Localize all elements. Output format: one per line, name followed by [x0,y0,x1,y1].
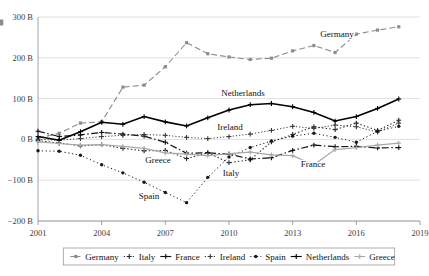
data-point-marker [312,44,315,47]
data-point-marker [249,146,252,149]
series-line [38,126,399,202]
data-point-marker [206,176,209,179]
legend-item-label: France [175,252,200,262]
x-axis-tick-label: 2019 [412,228,429,238]
legend-item-netherlands[interactable]: Netherlands [291,252,350,262]
chart-legend: GermanyItalyFranceIrelandSpainNetherland… [63,248,394,265]
x-axis-tick-label: 2016 [348,228,365,238]
legend-item-label: Spain [265,252,286,262]
inline-series-label: Spain [139,191,160,201]
x-axis-tick-label: 2010 [221,228,238,238]
legend-item-spain[interactable]: Spain [250,252,286,262]
legend-item-greece[interactable]: Greece [354,252,394,262]
y-axis-tick-label: 0 B [21,134,33,144]
data-point-marker [206,52,209,55]
data-point-marker [143,84,146,87]
legend-item-france[interactable]: France [160,252,200,262]
data-point-marker [185,201,188,204]
data-point-marker [74,255,77,258]
data-point-marker [0,22,3,25]
data-point-marker [185,41,188,44]
data-point-marker [79,121,82,124]
data-series-layer [0,19,401,204]
legend-item-label: Germany [85,252,119,262]
data-point-marker [121,86,124,89]
gridlines [38,17,420,221]
inline-series-label: Netherlands [221,88,265,98]
data-point-marker [270,139,273,142]
data-point-marker [0,19,3,22]
data-point-marker [164,191,167,194]
data-point-marker [355,141,358,144]
x-axis-tick-label: 2007 [157,228,174,238]
data-point-marker [249,58,252,61]
y-axis-tick-label: 100 B [12,94,33,104]
series-netherlands [36,97,402,143]
y-axis-tick-label: −200 B [8,216,34,226]
data-point-marker [376,130,379,133]
data-point-marker [121,171,124,174]
x-axis-tick-label: 2013 [284,228,301,238]
data-point-marker [312,132,315,135]
data-point-marker [376,28,379,31]
legend-item-label: Italy [139,252,156,262]
data-point-marker [397,25,400,28]
line-chart: −200 B−100 B0 B100 B200 B300 B 200120042… [0,0,429,276]
legend-item-label: Ireland [220,252,246,262]
y-axis-tick-label: 200 B [12,53,33,63]
series-spain [36,125,400,205]
inline-series-label: France [301,159,326,169]
x-axis-tick-label: 2001 [30,228,47,238]
inline-series-label: Germany [320,29,354,39]
data-point-marker [79,154,82,157]
data-point-marker [270,57,273,60]
series-line [38,142,399,165]
data-point-marker [291,134,294,137]
inline-series-label: Greece [145,155,170,165]
legend-item-ireland[interactable]: Ireland [205,252,246,262]
data-point-marker [355,33,358,36]
series-greece [36,139,402,167]
inline-series-label: Italy [223,168,240,178]
data-point-marker [164,65,167,68]
data-point-marker [291,49,294,52]
legend-item-italy[interactable]: Italy [124,252,156,262]
inline-series-label: Ireland [217,122,243,132]
legend-item-germany[interactable]: Germany [70,252,119,262]
legend-item-label: Netherlands [306,252,350,262]
y-axis-tick-label: −100 B [8,175,34,185]
y-axis-tick-label: 300 B [12,12,33,22]
data-point-marker [142,181,145,184]
chart-container: −200 B−100 B0 B100 B200 B300 B 200120042… [0,0,429,276]
data-point-marker [36,149,39,152]
data-point-marker [100,163,103,166]
legend-item-label: Greece [369,252,394,262]
data-point-marker [397,125,400,128]
data-point-marker [227,55,230,58]
data-point-marker [334,51,337,54]
x-axis-tick-label: 2004 [93,228,111,238]
data-point-marker [333,136,336,139]
data-point-marker [58,150,61,153]
y-axis-tick-labels: −200 B−100 B0 B100 B200 B300 B [8,12,34,226]
data-point-marker [254,255,257,258]
